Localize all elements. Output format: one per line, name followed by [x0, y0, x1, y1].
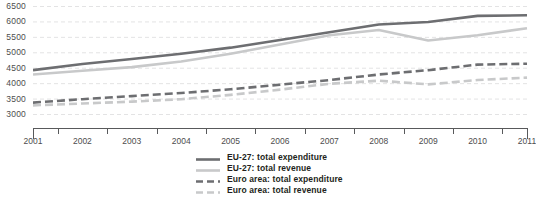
x-axis-tick-label: 2007	[320, 136, 339, 146]
legend-item[interactable]: EU-27: total revenue	[196, 162, 343, 173]
y-axis-tick-label: 6500	[0, 1, 30, 11]
legend-swatch-line-icon	[196, 162, 220, 173]
x-axis-tick	[206, 128, 207, 134]
x-axis-tick	[255, 128, 256, 134]
legend-item-label: Euro area: total revenue	[227, 185, 327, 195]
x-axis-tick	[502, 128, 503, 134]
x-axis-tick-label: 2005	[221, 136, 240, 146]
x-axis-tick	[305, 128, 306, 134]
x-axis-tick-label: 2008	[369, 136, 388, 146]
x-axis-tick-label: 2002	[73, 136, 92, 146]
legend-item-label: Euro area: total expenditure	[227, 174, 343, 184]
chart-legend: EU-27: total expenditureEU-27: total rev…	[196, 151, 343, 195]
y-axis-tick-label: 6000	[0, 16, 30, 26]
x-axis-tick-label: 2010	[468, 136, 487, 146]
x-axis-tick	[404, 128, 405, 134]
series-line-0	[33, 15, 527, 70]
legend-swatch-line-icon	[196, 184, 220, 195]
x-axis-tick	[453, 128, 454, 134]
y-axis: 65006000550050004500400035003000	[0, 0, 30, 200]
y-axis-tick-label: 4000	[0, 78, 30, 88]
legend-item-label: EU-27: total expenditure	[227, 152, 327, 162]
x-axis: 2001200220032004200520062007200820092010…	[33, 128, 528, 150]
y-axis-tick-label: 3500	[0, 94, 30, 104]
legend-item[interactable]: Euro area: total expenditure	[196, 173, 343, 184]
y-axis-tick-label: 5000	[0, 47, 30, 57]
y-axis-tick-label: 5500	[0, 32, 30, 42]
legend-item[interactable]: Euro area: total revenue	[196, 184, 343, 195]
x-axis-tick-label: 2009	[419, 136, 438, 146]
legend-item[interactable]: EU-27: total expenditure	[196, 151, 343, 162]
y-axis-tick-label: 4500	[0, 63, 30, 73]
plot-svg	[33, 6, 528, 128]
x-axis-tick-label: 2006	[271, 136, 290, 146]
series-line-3	[33, 78, 527, 106]
legend-swatch-line-icon	[196, 151, 220, 162]
legend-swatch-line-icon	[196, 173, 220, 184]
x-axis-tick	[354, 128, 355, 134]
x-axis-tick-label: 2003	[122, 136, 141, 146]
plot-area	[33, 6, 528, 128]
legend-item-label: EU-27: total revenue	[227, 163, 311, 173]
y-axis-tick-label: 3000	[0, 109, 30, 119]
x-axis-tick-label: 2011	[518, 136, 536, 146]
x-axis-tick	[107, 128, 108, 134]
x-axis-tick-label: 2004	[172, 136, 191, 146]
x-axis-tick	[157, 128, 158, 134]
x-axis-tick-label: 2001	[24, 136, 43, 146]
x-axis-tick	[58, 128, 59, 134]
